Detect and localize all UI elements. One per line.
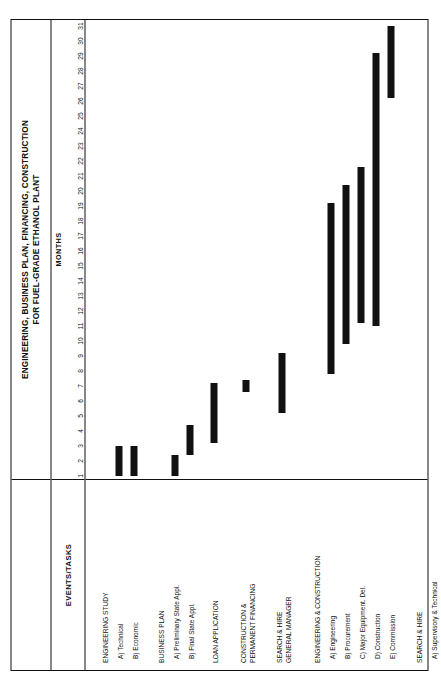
bar-economic (130, 446, 137, 476)
month-tick-25: 25 (76, 108, 83, 124)
month-tick-3: 3 (76, 438, 83, 454)
task-label-2: B) Economic (131, 483, 139, 659)
month-tick-26: 26 (76, 93, 83, 109)
task-label-0: ENGINEERING STUDY (101, 483, 109, 663)
title-band: ENGINEERING, BUSINESS PLAN, FINANCING, C… (11, 20, 51, 670)
bar-commission (387, 26, 394, 98)
month-tick-5: 5 (76, 408, 83, 424)
bar-loan-application (210, 383, 217, 443)
month-tick-20: 20 (76, 183, 83, 199)
task-label-9: SEARCH & HIRE (275, 483, 283, 663)
bar-engineering (327, 203, 334, 374)
month-tick-28: 28 (76, 63, 83, 79)
task-label-5: B) Final State Appl. (187, 483, 195, 659)
task-label-7: CONSTRUCTION & (239, 483, 247, 663)
events-tasks-header: EVENTS/TASKS (51, 479, 84, 670)
bar-final-state-appl (186, 425, 193, 455)
chart-title: ENGINEERING, BUSINESS PLAN, FINANCING, C… (20, 120, 41, 379)
month-tick-17: 17 (76, 228, 83, 244)
month-tick-16: 16 (76, 243, 83, 259)
bar-technical (115, 446, 122, 476)
month-tick-4: 4 (76, 423, 83, 439)
month-tick-29: 29 (76, 48, 83, 64)
bar-major-equipment-del (357, 167, 364, 323)
month-tick-24: 24 (76, 123, 83, 139)
task-label-column: ENGINEERING STUDYA) TechnicalB) Economic… (85, 479, 427, 670)
chart-page: ENGINEERING, BUSINESS PLAN, FINANCING, C… (0, 0, 441, 684)
bar-preliminary-state-appl (171, 455, 178, 476)
chart-frame: ENGINEERING, BUSINESS PLAN, FINANCING, C… (10, 19, 428, 671)
month-tick-11: 11 (76, 318, 83, 334)
title-left-spacer (11, 479, 50, 670)
task-label-12: A) Engineering (328, 483, 336, 659)
month-tick-15: 15 (76, 258, 83, 274)
gantt-plot-area (85, 20, 427, 479)
task-label-14: C) Major Equipment. Del. (358, 483, 366, 659)
task-label-6: LOAN APPLICATION (211, 483, 219, 663)
month-tick-22: 22 (76, 153, 83, 169)
task-label-4: A) Preliminary State Appl. (172, 483, 180, 659)
month-tick-12: 12 (76, 303, 83, 319)
header-row: EVENTS/TASKS MONTHS 12345678910111213141… (51, 20, 85, 670)
month-tick-6: 6 (76, 393, 83, 409)
month-tick-14: 14 (76, 273, 83, 289)
task-label-8: PERMANENT FINANCING (248, 483, 256, 663)
task-label-3: BUSINESS PLAN (157, 483, 165, 663)
task-label-16: E) Commission (388, 483, 396, 659)
month-tick-27: 27 (76, 78, 83, 94)
bar-procurement (342, 185, 349, 344)
bar-construction-permanent-financing (242, 380, 249, 392)
month-tick-31: 31 (76, 18, 83, 34)
chart-body: ENGINEERING STUDYA) TechnicalB) Economic… (85, 20, 427, 670)
month-tick-10: 10 (76, 333, 83, 349)
task-label-15: D) Construction (373, 483, 381, 659)
bar-search-hire-general-manager (278, 353, 285, 413)
task-label-13: B) Procurement (343, 483, 351, 659)
month-tick-9: 9 (76, 348, 83, 364)
task-label-11: ENGINEERING & CONSTRUCTION (313, 483, 321, 663)
months-header: MONTHS 123456789101112131415161718192021… (51, 20, 84, 479)
task-label-1: A) Technical (116, 483, 124, 659)
month-tick-30: 30 (76, 33, 83, 49)
month-tick-23: 23 (76, 138, 83, 154)
month-tick-21: 21 (76, 168, 83, 184)
title-cell: ENGINEERING, BUSINESS PLAN, FINANCING, C… (11, 20, 50, 479)
month-tick-2: 2 (76, 453, 83, 469)
month-tick-8: 8 (76, 363, 83, 379)
months-header-label: MONTHS (53, 20, 62, 479)
month-tick-row: 1234567891011121314151617181920212223242… (69, 20, 83, 479)
month-tick-1: 1 (76, 468, 83, 484)
month-tick-13: 13 (76, 288, 83, 304)
task-label-18: A) Supervisory & Technical (430, 483, 438, 659)
chart-title-line1: ENGINEERING, BUSINESS PLAN, FINANCING, C… (20, 120, 31, 379)
chart-title-line2: FOR FUEL-GRADE ETHANOL PLANT (31, 120, 42, 379)
task-label-17: SEARCH & HIRE (415, 483, 423, 663)
month-tick-19: 19 (76, 198, 83, 214)
month-tick-18: 18 (76, 213, 83, 229)
events-tasks-header-label: EVENTS/TASKS (63, 544, 72, 606)
task-label-10: GENERAL MANAGER (284, 483, 292, 663)
bar-construction (372, 53, 379, 326)
rotated-chart-canvas: ENGINEERING, BUSINESS PLAN, FINANCING, C… (8, 10, 433, 674)
month-tick-7: 7 (76, 378, 83, 394)
